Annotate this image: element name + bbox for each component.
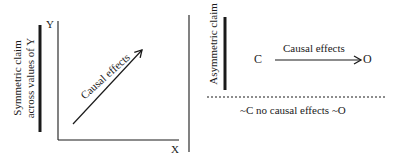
symmetric-claim-label-line1: Symmetric claim — [11, 36, 23, 120]
cause-node-label: C — [254, 53, 262, 65]
negation-label: ~C no causal effects ~O — [240, 104, 346, 116]
horizontal-arrow-label: Causal effects — [283, 42, 345, 54]
asymmetric-claim-label: Asymmetric claim — [207, 1, 219, 87]
y-axis-label: Y — [46, 18, 54, 30]
x-axis-label: X — [171, 143, 179, 155]
outcome-node-label: O — [363, 53, 372, 65]
symmetric-claim-label-line2: across values of Y — [24, 28, 36, 128]
diagram-canvas — [0, 0, 394, 163]
